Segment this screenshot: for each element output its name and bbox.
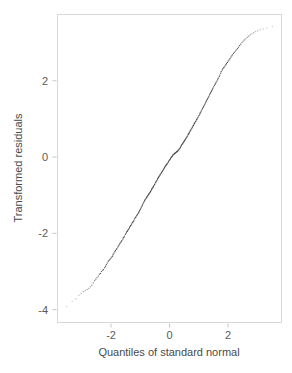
data-point bbox=[244, 39, 245, 40]
data-point bbox=[83, 291, 84, 292]
data-point bbox=[85, 290, 86, 291]
data-point bbox=[99, 274, 100, 275]
data-point bbox=[232, 54, 233, 55]
figure-background bbox=[0, 0, 292, 373]
data-point bbox=[209, 94, 210, 95]
data-point bbox=[113, 253, 114, 254]
data-point bbox=[131, 223, 132, 224]
data-point bbox=[227, 62, 228, 63]
data-point bbox=[143, 201, 144, 202]
data-point bbox=[259, 29, 260, 30]
data-point bbox=[234, 52, 235, 53]
data-point bbox=[119, 243, 120, 244]
data-point bbox=[217, 80, 218, 81]
data-point bbox=[112, 256, 113, 257]
data-point bbox=[156, 180, 157, 181]
y-tick-label: 0 bbox=[42, 151, 48, 163]
data-point bbox=[212, 87, 213, 88]
data-point bbox=[236, 49, 237, 50]
data-point bbox=[125, 234, 126, 235]
data-point bbox=[238, 47, 239, 48]
data-point bbox=[253, 32, 254, 33]
x-tick-label: 0 bbox=[166, 329, 172, 341]
data-point bbox=[226, 63, 227, 64]
data-point bbox=[230, 56, 231, 57]
data-point bbox=[101, 271, 102, 272]
data-point bbox=[120, 242, 121, 243]
data-point bbox=[154, 183, 155, 184]
data-point bbox=[153, 186, 154, 187]
data-point bbox=[257, 30, 258, 31]
data-point bbox=[95, 279, 96, 280]
data-point bbox=[143, 202, 144, 203]
data-point bbox=[224, 65, 225, 66]
data-point bbox=[128, 228, 129, 229]
data-point bbox=[218, 77, 219, 78]
data-point bbox=[213, 86, 214, 87]
data-point bbox=[75, 298, 76, 299]
data-point bbox=[125, 233, 126, 234]
data-point bbox=[208, 97, 209, 98]
data-point bbox=[212, 89, 213, 90]
data-point bbox=[196, 118, 197, 119]
data-point bbox=[247, 37, 248, 38]
data-point bbox=[216, 81, 217, 82]
data-point bbox=[221, 69, 222, 70]
data-point bbox=[241, 42, 242, 43]
y-axis-title: Transformed residuals bbox=[12, 113, 24, 223]
data-point bbox=[106, 264, 107, 265]
data-point bbox=[206, 100, 207, 101]
data-point bbox=[240, 44, 241, 45]
data-point bbox=[142, 203, 143, 204]
data-point bbox=[134, 219, 135, 220]
data-point bbox=[211, 91, 212, 92]
data-point bbox=[94, 280, 95, 281]
data-point bbox=[201, 109, 202, 110]
data-point bbox=[199, 114, 200, 115]
data-point bbox=[103, 269, 104, 270]
data-point bbox=[225, 64, 226, 65]
data-point bbox=[127, 230, 128, 231]
data-point bbox=[100, 273, 101, 274]
data-point bbox=[140, 209, 141, 210]
data-point bbox=[104, 267, 105, 268]
data-point bbox=[205, 101, 206, 102]
x-axis-title: Quantiles of standard normal bbox=[98, 346, 239, 358]
data-point bbox=[142, 205, 143, 206]
data-point bbox=[219, 74, 220, 75]
data-point bbox=[118, 245, 119, 246]
data-point bbox=[207, 99, 208, 100]
data-point bbox=[235, 50, 236, 51]
data-point bbox=[121, 240, 122, 241]
data-point bbox=[72, 301, 73, 302]
data-point bbox=[266, 27, 267, 28]
data-point bbox=[91, 285, 92, 286]
data-point bbox=[214, 84, 215, 85]
data-point bbox=[201, 110, 202, 111]
data-point bbox=[93, 282, 94, 283]
data-point bbox=[272, 26, 273, 27]
data-point bbox=[96, 277, 97, 278]
x-tick-label: -2 bbox=[106, 329, 116, 341]
data-point bbox=[215, 82, 216, 83]
data-point bbox=[124, 235, 125, 236]
data-point bbox=[202, 108, 203, 109]
data-point bbox=[210, 93, 211, 94]
data-point bbox=[116, 248, 117, 249]
y-tick-label: -4 bbox=[38, 304, 48, 316]
data-point bbox=[198, 116, 199, 117]
data-point bbox=[228, 59, 229, 60]
data-point bbox=[200, 111, 201, 112]
data-point bbox=[219, 76, 220, 77]
data-point bbox=[141, 206, 142, 207]
data-point bbox=[217, 79, 218, 80]
data-point bbox=[204, 103, 205, 104]
data-point bbox=[224, 66, 225, 67]
data-point bbox=[114, 251, 115, 252]
data-point bbox=[245, 38, 246, 39]
data-point bbox=[243, 40, 244, 41]
data-point bbox=[189, 132, 190, 133]
data-point bbox=[129, 227, 130, 228]
data-point bbox=[207, 98, 208, 99]
x-tick-label: 2 bbox=[225, 329, 231, 341]
